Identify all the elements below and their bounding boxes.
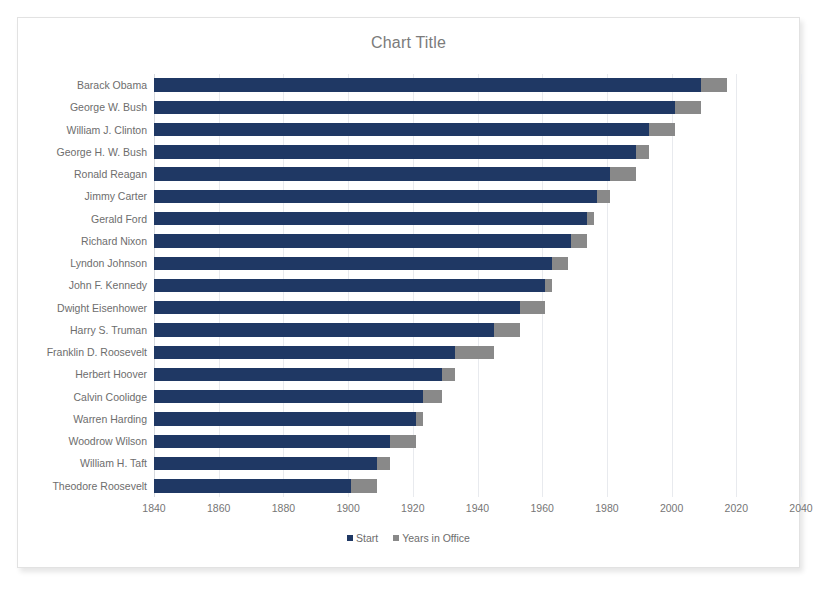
bar-segment-years-in-office[interactable] — [649, 123, 675, 136]
bar-segment-start[interactable] — [154, 167, 610, 180]
bar-row: Jimmy Carter — [154, 185, 801, 207]
category-label[interactable]: Woodrow Wilson — [68, 430, 147, 452]
bar-segment-years-in-office[interactable] — [494, 323, 520, 336]
category-label[interactable]: Herbert Hoover — [75, 363, 147, 385]
bar-segment-years-in-office[interactable] — [390, 435, 416, 448]
bar-segment-years-in-office[interactable] — [675, 101, 701, 114]
bar-row: Ronald Reagan — [154, 163, 801, 185]
bar-segment-start[interactable] — [154, 457, 377, 470]
category-label[interactable]: William H. Taft — [80, 452, 147, 474]
bar-segment-years-in-office[interactable] — [552, 257, 568, 270]
category-label[interactable]: Dwight Eisenhower — [57, 297, 147, 319]
stacked-bar[interactable] — [154, 101, 701, 114]
stacked-bar[interactable] — [154, 346, 494, 359]
bar-segment-start[interactable] — [154, 145, 636, 158]
category-label[interactable]: Ronald Reagan — [74, 163, 147, 185]
bar-segment-years-in-office[interactable] — [571, 234, 587, 247]
bar-segment-start[interactable] — [154, 234, 571, 247]
bar-segment-start[interactable] — [154, 78, 701, 91]
bar-row: Harry S. Truman — [154, 319, 801, 341]
legend-swatch-icon — [347, 535, 353, 541]
stacked-bar[interactable] — [154, 390, 442, 403]
stacked-bar[interactable] — [154, 279, 552, 292]
bar-row: Woodrow Wilson — [154, 430, 801, 452]
bar-segment-start[interactable] — [154, 123, 649, 136]
category-label[interactable]: Theodore Roosevelt — [52, 475, 147, 497]
bar-segment-start[interactable] — [154, 323, 494, 336]
bar-segment-years-in-office[interactable] — [442, 368, 455, 381]
bar-segment-years-in-office[interactable] — [636, 145, 649, 158]
bar-row: Warren Harding — [154, 408, 801, 430]
category-label[interactable]: Barack Obama — [77, 74, 147, 96]
bar-segment-years-in-office[interactable] — [701, 78, 727, 91]
category-label[interactable]: Gerald Ford — [91, 208, 147, 230]
bar-segment-start[interactable] — [154, 257, 552, 270]
bar-row: Lyndon Johnson — [154, 252, 801, 274]
bar-segment-start[interactable] — [154, 301, 520, 314]
category-label[interactable]: George W. Bush — [70, 96, 147, 118]
stacked-bar[interactable] — [154, 301, 545, 314]
bar-segment-years-in-office[interactable] — [587, 212, 593, 225]
bar-segment-years-in-office[interactable] — [377, 457, 390, 470]
bar-segment-years-in-office[interactable] — [423, 390, 442, 403]
stacked-bar[interactable] — [154, 190, 610, 203]
bar-segment-years-in-office[interactable] — [545, 279, 551, 292]
stacked-bar[interactable] — [154, 479, 377, 492]
category-label[interactable]: John F. Kennedy — [69, 274, 147, 296]
legend-item-years-in-office[interactable]: Years in Office — [393, 532, 470, 544]
category-label[interactable]: Calvin Coolidge — [73, 386, 147, 408]
stacked-bar[interactable] — [154, 368, 455, 381]
x-axis-tick-labels[interactable]: 1840186018801900192019401960198020002020… — [154, 502, 801, 522]
stacked-bar[interactable] — [154, 123, 675, 136]
bar-segment-start[interactable] — [154, 190, 597, 203]
stacked-bar[interactable] — [154, 78, 727, 91]
x-tick-label-1920: 1920 — [401, 502, 424, 514]
bar-row: William J. Clinton — [154, 119, 801, 141]
stacked-bar[interactable] — [154, 145, 649, 158]
stacked-bar[interactable] — [154, 257, 568, 270]
bar-segment-years-in-office[interactable] — [351, 479, 377, 492]
bar-row: Richard Nixon — [154, 230, 801, 252]
bar-segment-start[interactable] — [154, 279, 545, 292]
x-tick-label-1840: 1840 — [142, 502, 165, 514]
bar-segment-years-in-office[interactable] — [455, 346, 494, 359]
category-label[interactable]: Richard Nixon — [81, 230, 147, 252]
bar-row: Herbert Hoover — [154, 363, 801, 385]
bar-segment-years-in-office[interactable] — [520, 301, 546, 314]
category-label[interactable]: Franklin D. Roosevelt — [47, 341, 147, 363]
legend-item-start[interactable]: Start — [347, 532, 378, 544]
bar-row: William H. Taft — [154, 452, 801, 474]
x-tick-label-1980: 1980 — [595, 502, 618, 514]
bar-segment-years-in-office[interactable] — [416, 412, 422, 425]
bar-segment-start[interactable] — [154, 368, 442, 381]
bar-row: Barack Obama — [154, 74, 801, 96]
bar-row: George H. W. Bush — [154, 141, 801, 163]
stacked-bar[interactable] — [154, 323, 520, 336]
category-label[interactable]: William J. Clinton — [66, 119, 147, 141]
bar-segment-years-in-office[interactable] — [610, 167, 636, 180]
stacked-bar[interactable] — [154, 212, 594, 225]
stacked-bar[interactable] — [154, 457, 390, 470]
bar-segment-start[interactable] — [154, 101, 675, 114]
category-label[interactable]: Harry S. Truman — [70, 319, 147, 341]
bar-segment-start[interactable] — [154, 212, 587, 225]
chart-title[interactable]: Chart Title — [18, 34, 799, 52]
chart-legend[interactable]: StartYears in Office — [18, 532, 799, 544]
stacked-bar[interactable] — [154, 234, 587, 247]
chart-container[interactable]: Chart Title Barack ObamaGeorge W. BushWi… — [17, 17, 800, 568]
bar-segment-start[interactable] — [154, 412, 416, 425]
stacked-bar[interactable] — [154, 435, 416, 448]
category-label[interactable]: George H. W. Bush — [57, 141, 147, 163]
bar-segment-start[interactable] — [154, 346, 455, 359]
bar-segment-start[interactable] — [154, 435, 390, 448]
bar-segment-years-in-office[interactable] — [597, 190, 610, 203]
category-label[interactable]: Jimmy Carter — [85, 185, 147, 207]
x-tick-label-1900: 1900 — [336, 502, 359, 514]
stacked-bar[interactable] — [154, 412, 423, 425]
category-label[interactable]: Warren Harding — [73, 408, 147, 430]
bar-segment-start[interactable] — [154, 390, 423, 403]
bar-segment-start[interactable] — [154, 479, 351, 492]
stacked-bar[interactable] — [154, 167, 636, 180]
category-label[interactable]: Lyndon Johnson — [70, 252, 147, 274]
bar-row: Calvin Coolidge — [154, 386, 801, 408]
